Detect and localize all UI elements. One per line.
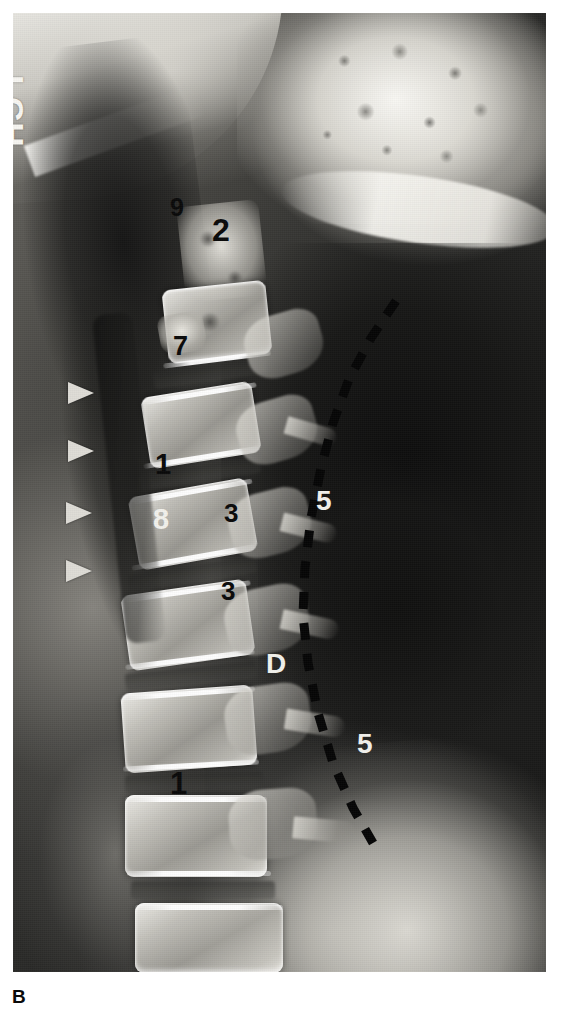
annotation-5-lower: 5: [357, 730, 373, 758]
annotation-1-lower: 1: [170, 768, 187, 799]
c6-c7-disc: [125, 771, 264, 794]
arrowhead-marker-2: [68, 440, 94, 462]
arrowhead-marker-1: [68, 382, 94, 404]
c7-t1-disc: [131, 881, 275, 899]
annotation-2: 2: [212, 214, 230, 246]
arrowhead-marker-3: [66, 502, 92, 524]
annotation-5-upper: 5: [316, 487, 332, 515]
cervical-spine-column: [13, 13, 546, 972]
t1-superior-endplate: [135, 905, 283, 910]
side-marker-lch: LCH: [13, 75, 31, 148]
annotation-7: 7: [173, 333, 188, 360]
arrowhead-marker-4: [66, 560, 92, 582]
c7-inferior-endplate: [127, 871, 271, 876]
figure-root: LCH 9 2 7 1 8 3 5 3 D 5 1 B: [0, 0, 563, 1021]
annotation-9: 9: [170, 195, 184, 220]
annotation-D: D: [266, 650, 286, 678]
annotation-3-upper: 3: [224, 500, 238, 526]
figure-caption-label: B: [12, 986, 26, 1008]
annotation-3-lower: 3: [221, 578, 235, 604]
radiograph-image: LCH 9 2 7 1 8 3 5 3 D 5 1: [13, 13, 546, 972]
vertebra-t1-body: [135, 903, 283, 972]
annotation-8: 8: [153, 505, 169, 534]
annotation-1-upper: 1: [155, 450, 171, 479]
